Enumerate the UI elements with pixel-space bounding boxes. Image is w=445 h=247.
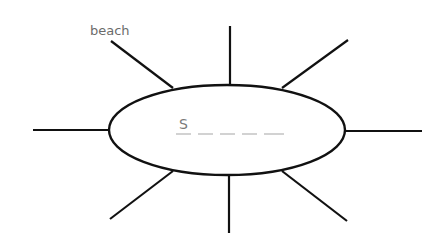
spider-diagram-canvas: beach S xyxy=(0,0,445,247)
center-first-letter: S xyxy=(179,116,188,132)
spoke-label-beach: beach xyxy=(90,23,130,38)
spider-diagram: beach S xyxy=(0,0,445,247)
spoke-lower-right xyxy=(282,171,347,221)
spoke-upper-left xyxy=(111,41,173,88)
spoke-upper-right xyxy=(282,40,348,88)
center-ellipse xyxy=(109,85,345,175)
spoke-lower-left xyxy=(110,171,173,219)
